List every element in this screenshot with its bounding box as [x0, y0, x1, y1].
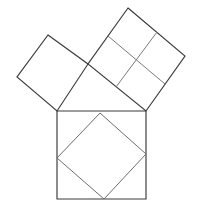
diagram-background — [0, 0, 201, 217]
pythagorean-squares-diagram: Pythagorean theorem squares figure Three… — [0, 0, 201, 217]
figure-canvas: Pythagorean theorem squares figure Three… — [0, 0, 201, 217]
